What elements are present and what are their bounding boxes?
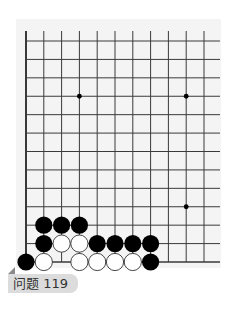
white-stone[interactable] [106, 253, 123, 270]
white-stone[interactable] [89, 253, 106, 270]
black-stone[interactable] [124, 235, 141, 252]
black-stone[interactable] [142, 253, 159, 270]
problem-label: 问题 119 [8, 274, 78, 293]
black-stone[interactable] [106, 235, 123, 252]
black-stone[interactable] [35, 235, 52, 252]
black-stone[interactable] [89, 235, 106, 252]
white-stone[interactable] [53, 235, 70, 252]
white-stone[interactable] [35, 253, 52, 270]
black-stone[interactable] [17, 253, 34, 270]
black-stone[interactable] [71, 217, 88, 234]
star-point [184, 204, 189, 209]
white-stone[interactable] [71, 235, 88, 252]
star-point [184, 94, 189, 99]
black-stone[interactable] [53, 217, 70, 234]
white-stone[interactable] [124, 253, 141, 270]
black-stone[interactable] [35, 217, 52, 234]
star-point [77, 94, 82, 99]
white-stone[interactable] [71, 253, 88, 270]
go-board[interactable] [0, 0, 242, 312]
black-stone[interactable] [142, 235, 159, 252]
label-fold-decoration [8, 267, 15, 274]
